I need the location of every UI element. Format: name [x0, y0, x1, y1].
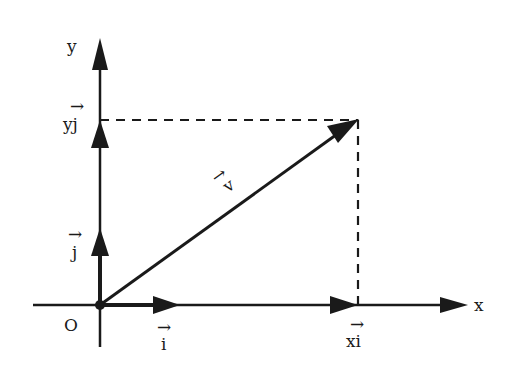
- j-label: j: [70, 242, 77, 262]
- x-axis-arrowhead-icon: [440, 297, 468, 313]
- xi-arrowhead-icon: [330, 296, 358, 314]
- origin-label: O: [64, 315, 78, 335]
- unit-vector-i: [100, 296, 180, 314]
- yj-arrowhead-icon: [91, 120, 109, 148]
- xi-label: xi: [346, 331, 362, 351]
- j-arrowhead-icon: [91, 228, 109, 256]
- yj-arrow-glyph: →: [70, 96, 84, 116]
- vector-v: [100, 119, 359, 305]
- y-axis-arrowhead-icon: [92, 38, 108, 70]
- j-arrow-glyph: →: [68, 224, 82, 244]
- yj-label: yj: [62, 114, 78, 134]
- i-arrowhead-icon: [153, 296, 180, 314]
- i-label: i: [161, 334, 167, 354]
- y-axis-label: y: [66, 36, 77, 56]
- x-axis-label: x: [474, 295, 484, 315]
- vector-diagram: y x O → j → i → yj → xi → v: [0, 0, 512, 390]
- unit-vector-j: [91, 228, 109, 305]
